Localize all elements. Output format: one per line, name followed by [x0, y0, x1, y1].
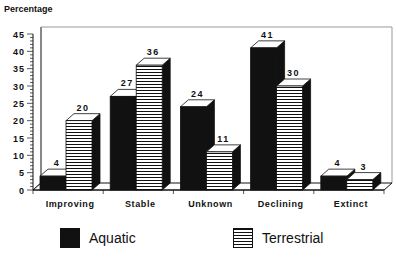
svg-text:41: 41 — [261, 30, 274, 40]
svg-text:Improving: Improving — [46, 199, 95, 209]
bar-terrestrial-declining: 30 — [277, 68, 311, 190]
legend-item-aquatic: Aquatic — [60, 228, 136, 248]
terrestrial-swatch-icon — [233, 228, 253, 248]
aquatic-swatch-icon — [60, 228, 80, 248]
svg-text:27: 27 — [121, 78, 134, 88]
svg-text:15: 15 — [13, 134, 25, 144]
svg-text:Unknown: Unknown — [188, 199, 233, 209]
svg-text:30: 30 — [287, 68, 300, 78]
legend-label: Aquatic — [89, 230, 136, 246]
svg-text:24: 24 — [191, 89, 204, 99]
svg-text:Declining: Declining — [258, 199, 304, 209]
svg-text:10: 10 — [13, 151, 25, 161]
svg-text:0: 0 — [19, 186, 25, 196]
svg-text:40: 40 — [13, 47, 25, 57]
svg-text:11: 11 — [217, 134, 230, 144]
svg-text:4: 4 — [54, 158, 61, 168]
svg-text:35: 35 — [13, 64, 25, 74]
bar-terrestrial-extinct: 3 — [347, 162, 381, 190]
legend-item-terrestrial: Terrestrial — [233, 228, 323, 248]
legend-label: Terrestrial — [262, 230, 323, 246]
svg-text:4: 4 — [335, 158, 342, 168]
bars: 42027362411413043 — [40, 30, 381, 190]
svg-text:30: 30 — [13, 82, 25, 92]
svg-text:45: 45 — [13, 30, 25, 40]
svg-text:Extinct: Extinct — [334, 199, 368, 209]
svg-text:5: 5 — [19, 168, 25, 178]
svg-text:Stable: Stable — [125, 199, 156, 209]
svg-text:20: 20 — [13, 116, 25, 126]
bar-terrestrial-stable: 36 — [136, 47, 170, 190]
svg-text:25: 25 — [13, 99, 25, 109]
svg-text:20: 20 — [76, 103, 89, 113]
svg-text:36: 36 — [147, 47, 160, 57]
bar-terrestrial-improving: 20 — [66, 103, 100, 190]
svg-text:3: 3 — [361, 162, 368, 172]
bar-chart: 051015202530354045ImprovingStableUnknown… — [0, 0, 396, 225]
legend: Aquatic Terrestrial — [0, 228, 396, 252]
